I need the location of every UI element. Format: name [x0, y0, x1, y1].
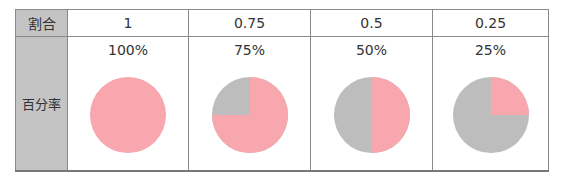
percent-label: 75%	[189, 40, 310, 60]
ratio-cell: 0.75	[189, 10, 311, 37]
ratio-percent-table: 割合 1 0.75 0.5 0.25 百分率 100% 75% 50%	[15, 9, 549, 172]
percent-label: 50%	[311, 40, 432, 60]
pie-chart-75	[211, 76, 289, 154]
pie-chart-25	[452, 76, 530, 154]
pie-chart-100	[89, 76, 167, 154]
percent-row: 百分率 100% 75% 50% 25%	[16, 37, 549, 172]
percent-label: 25%	[433, 40, 548, 60]
percent-label: 100%	[68, 40, 188, 60]
percent-cell: 75%	[189, 37, 311, 172]
percent-cell: 100%	[68, 37, 189, 172]
ratio-cell: 1	[68, 10, 189, 37]
ratio-row: 割合 1 0.75 0.5 0.25	[16, 10, 549, 37]
percent-row-header: 百分率	[16, 37, 68, 172]
percent-cell: 50%	[311, 37, 433, 172]
ratio-row-header: 割合	[16, 10, 68, 37]
pie-chart-50	[333, 76, 411, 154]
percent-cell: 25%	[433, 37, 549, 172]
ratio-cell: 0.25	[433, 10, 549, 37]
ratio-cell: 0.5	[311, 10, 433, 37]
